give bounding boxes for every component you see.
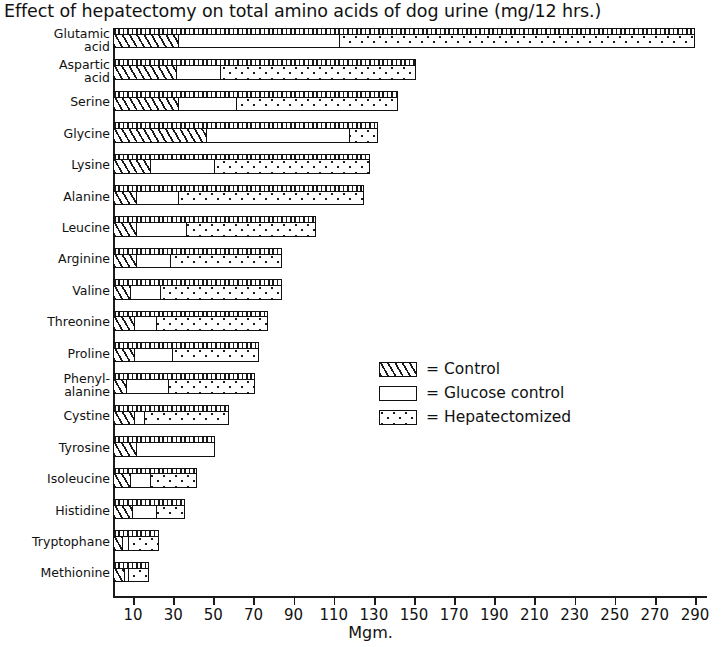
legend-equals-sign: =: [426, 384, 439, 402]
legend-equals-sign: =: [426, 408, 439, 426]
bar-segment-control: [113, 505, 133, 520]
bar-segment-control: [113, 379, 127, 394]
category-label: Methionine: [2, 567, 110, 580]
category-label: Alanine: [2, 191, 110, 204]
bar-group: [113, 562, 723, 584]
category-label: Tryptophane: [2, 536, 110, 549]
x-axis-tick: [334, 596, 336, 605]
x-axis-tick-label: 190: [480, 606, 509, 624]
bar-segment-control: [113, 97, 179, 112]
category-label: Tyrosine: [2, 442, 110, 455]
category-label: Glycine: [2, 128, 110, 141]
x-axis-tick-label: 130: [360, 606, 389, 624]
chart-legend: =Control=Glucose control=Hepatectomized: [379, 357, 669, 429]
legend-label: Control: [444, 360, 500, 378]
x-axis-tick-label: 50: [204, 606, 223, 624]
legend-item: =Glucose control: [379, 381, 669, 405]
bar-group: [113, 185, 723, 207]
bar-group: [113, 499, 723, 521]
x-axis-tick-label: 250: [600, 606, 629, 624]
x-axis-tick-label: 10: [124, 606, 143, 624]
x-axis-tick: [454, 596, 456, 605]
x-axis-title: Mgm.: [0, 623, 723, 642]
x-axis-tick: [253, 596, 255, 605]
x-axis-tick-label: 210: [520, 606, 549, 624]
bar-group: [113, 216, 723, 238]
x-axis-title-text: Mgm.: [348, 623, 393, 642]
bar-group: [113, 311, 723, 333]
category-label: Arginine: [2, 253, 110, 266]
x-axis-tick: [494, 596, 496, 605]
x-axis-tick: [414, 596, 416, 605]
bar-group: [113, 436, 723, 458]
bar-group: [113, 122, 723, 144]
x-axis-tick-label: 70: [244, 606, 263, 624]
legend-equals-sign: =: [426, 360, 439, 378]
dotted-swatch: [379, 410, 417, 425]
bar-segment-control: [113, 568, 125, 583]
bar-segment-control: [113, 411, 135, 426]
category-label: Aspartic acid: [2, 59, 110, 84]
category-label: Valine: [2, 285, 110, 298]
category-label: Phenyl- alanine: [2, 373, 110, 398]
bar-segment-control: [113, 316, 135, 331]
x-axis-tick-label: 110: [319, 606, 348, 624]
bar-segment-control: [113, 348, 135, 363]
x-axis-tick-label: 170: [440, 606, 469, 624]
x-axis-tick-label: 150: [400, 606, 429, 624]
x-axis-tick-label: 230: [560, 606, 589, 624]
bar-segment-control: [113, 159, 151, 174]
bar-group: [113, 28, 723, 50]
bar-segment-control: [113, 191, 137, 206]
chart-figure: Effect of hepatectomy on total amino aci…: [0, 0, 723, 647]
bar-segment-control: [113, 65, 177, 80]
legend-item: =Hepatectomized: [379, 405, 669, 429]
x-axis-tick: [575, 596, 577, 605]
x-axis-tick-label: 90: [284, 606, 303, 624]
category-label: Histidine: [2, 505, 110, 518]
bar-group: [113, 530, 723, 552]
hatched-swatch: [379, 362, 417, 377]
x-axis-tick-label: 270: [641, 606, 670, 624]
x-axis-tick: [615, 596, 617, 605]
x-axis-tick: [294, 596, 296, 605]
bar-group: [113, 248, 723, 270]
bar-segment-control: [113, 254, 137, 269]
x-axis-tick: [133, 596, 135, 605]
category-label: Isoleucine: [2, 473, 110, 486]
bar-group: [113, 91, 723, 113]
x-axis-tick: [695, 596, 697, 605]
plot-area: [113, 28, 723, 594]
x-axis-tick: [374, 596, 376, 605]
category-label: Glutamic acid: [2, 28, 110, 53]
bar-segment-control: [113, 34, 179, 49]
x-axis-tick: [213, 596, 215, 605]
category-axis-labels: Glutamic acidAspartic acidSerineGlycineL…: [0, 0, 110, 647]
category-label: Lysine: [2, 159, 110, 172]
category-label: Leucine: [2, 222, 110, 235]
x-axis-tick-label: 30: [164, 606, 183, 624]
x-axis-tick: [655, 596, 657, 605]
legend-item: =Control: [379, 357, 669, 381]
bar-segment-control: [113, 285, 131, 300]
white-swatch: [379, 386, 417, 401]
bar-group: [113, 468, 723, 490]
category-label: Proline: [2, 348, 110, 361]
x-axis-tick: [173, 596, 175, 605]
category-label: Serine: [2, 96, 110, 109]
x-axis-tick-label: 290: [681, 606, 710, 624]
category-label: Threonine: [2, 316, 110, 329]
bar-group: [113, 154, 723, 176]
legend-label: Hepatectomized: [444, 408, 571, 426]
category-label: Cystine: [2, 410, 110, 423]
bar-segment-control: [113, 473, 131, 488]
bar-group: [113, 59, 723, 81]
bar-segment-control: [113, 128, 207, 143]
bar-segment-control: [113, 442, 137, 457]
bar-segment-control: [113, 222, 137, 237]
bar-group: [113, 279, 723, 301]
legend-label: Glucose control: [444, 384, 564, 402]
x-axis-spine: [113, 596, 707, 598]
x-axis-tick: [534, 596, 536, 605]
bar-segment-control: [113, 536, 123, 551]
